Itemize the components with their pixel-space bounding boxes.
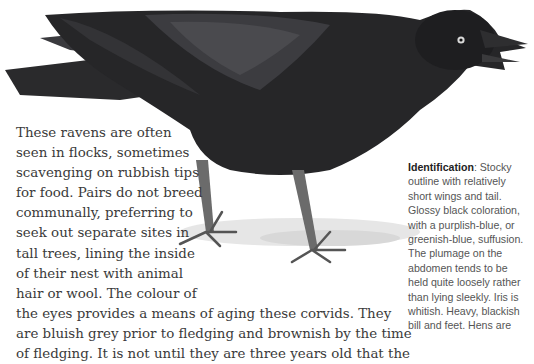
text-line: scavenging on rubbish tips — [16, 163, 416, 183]
sidebar-line: short wings and tail. — [408, 189, 534, 203]
main-description: These ravens are often seen in flocks, s… — [16, 123, 416, 364]
sidebar-line: whitish. Heavy, blackish — [408, 304, 534, 318]
sidebar-line: abdomen tends to be — [408, 261, 534, 275]
sidebar-line: Glossy black coloration, — [408, 203, 534, 217]
text-line: seek out separate sites in — [16, 223, 416, 243]
text-line: hair or wool. The colour of — [16, 284, 416, 304]
text-line: seen in flocks, sometimes — [16, 143, 416, 163]
identification-sidebar: Identification: Stocky outline with rela… — [408, 160, 534, 333]
text-line: of their nest with animal — [16, 264, 416, 284]
sidebar-line: The plumage on the — [408, 246, 534, 260]
text-line: These ravens are often — [16, 123, 416, 143]
text-line: the eyes provides a means of aging these… — [16, 304, 416, 324]
text-line: for food. Pairs do not breed — [16, 183, 416, 203]
sidebar-line: with a purplish-blue, or — [408, 218, 534, 232]
sidebar-line: than lying sleekly. Iris is — [408, 290, 534, 304]
identification-heading: Identification — [408, 161, 474, 173]
sidebar-line: outline with relatively — [408, 174, 534, 188]
identification-heading-line: Identification: Stocky — [408, 160, 534, 174]
heading-rest: : Stocky — [474, 161, 512, 173]
sidebar-line: bill and feet. Hens are — [408, 318, 534, 332]
sidebar-line: held quite loosely rather — [408, 275, 534, 289]
text-line: of fledging. It is not until they are th… — [16, 344, 416, 364]
text-line: are bluish grey prior to fledging and br… — [16, 324, 416, 344]
sidebar-line: greenish-blue, suffusion. — [408, 232, 534, 246]
text-line: communally, preferring to — [16, 203, 416, 223]
text-line: tall trees, lining the inside — [16, 244, 416, 264]
